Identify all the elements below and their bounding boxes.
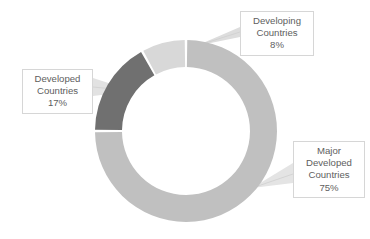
callout-developing-line1: Developing xyxy=(245,15,309,27)
callout-developing-value: 8% xyxy=(245,39,309,51)
callout-major-line2: Developed xyxy=(298,157,360,169)
callout-major-line3: Countries xyxy=(298,169,360,181)
callout-developed-line2: Countries xyxy=(27,85,88,97)
callout-major-developed-countries[interactable]: Major Developed Countries 75% xyxy=(293,141,365,198)
callout-developed-countries[interactable]: Developed Countries 17% xyxy=(22,69,93,114)
callout-developed-value: 17% xyxy=(27,97,88,109)
callout-major-line1: Major xyxy=(298,145,360,157)
donut-slices xyxy=(95,40,277,222)
callout-major-value: 75% xyxy=(298,182,360,194)
callout-developing-line2: Countries xyxy=(245,27,309,39)
donut-chart xyxy=(0,0,370,239)
chart-canvas: Developing Countries 8% Developed Countr… xyxy=(0,0,370,239)
callout-developing-countries[interactable]: Developing Countries 8% xyxy=(240,11,314,56)
callout-developed-line1: Developed xyxy=(27,73,88,85)
